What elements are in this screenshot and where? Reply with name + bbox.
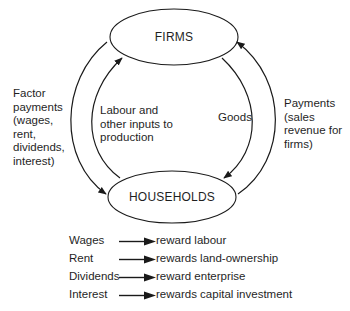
legend-description: rewards land-ownership <box>156 252 278 264</box>
legend-term: Dividends <box>69 270 120 282</box>
factor-payments-label: Factor payments (wages, rent, dividends,… <box>13 87 65 168</box>
firms-label: FIRMS <box>134 30 214 44</box>
legend-description: rewards capital investment <box>156 288 292 300</box>
households-label: HOUSEHOLDS <box>122 190 222 204</box>
arrow-right-icon <box>118 237 158 246</box>
payments-label: Payments (sales revenue for firms) <box>284 97 342 151</box>
arrow-right-icon <box>118 291 158 300</box>
legend-description: reward enterprise <box>156 270 245 282</box>
legend-term: Rent <box>69 252 93 264</box>
legend-term: Wages <box>69 234 104 246</box>
goods-label: Goods <box>218 111 252 125</box>
legend-description: reward labour <box>156 234 226 246</box>
arrow-right-icon <box>118 255 158 264</box>
arrow-right-icon <box>118 273 158 282</box>
labour-inputs-label: Labour and other inputs to production <box>100 104 173 145</box>
legend-term: Interest <box>69 288 107 300</box>
